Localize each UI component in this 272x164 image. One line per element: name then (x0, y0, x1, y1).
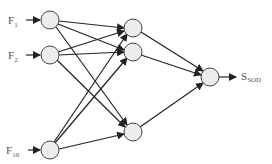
input-node-f10 (41, 141, 59, 159)
input-node-f1 (41, 11, 59, 29)
hidden-output-edges (140, 32, 203, 127)
input-label-f10: F10 (6, 144, 20, 159)
output-label-ssod: SSOD (241, 70, 261, 84)
input-label-f2: F2 (8, 49, 18, 64)
hidden-node-2 (124, 43, 142, 61)
output-node (201, 68, 219, 86)
input-hidden-edges (54, 21, 127, 149)
hidden-node-1 (124, 19, 142, 37)
hidden-node-3 (124, 123, 142, 141)
input-label-f1: F1 (8, 14, 18, 29)
input-node-f2 (41, 46, 59, 64)
neural-network-diagram: F1 F2 F10 SSOD (0, 0, 272, 164)
